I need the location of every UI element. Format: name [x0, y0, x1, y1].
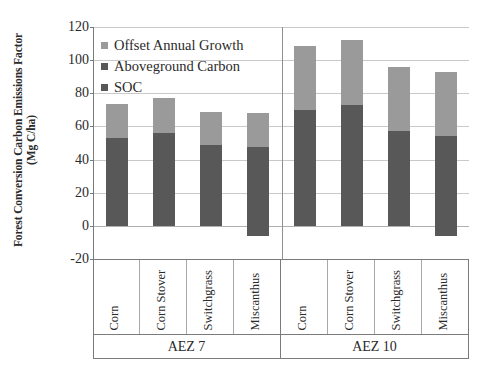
category-cell-corn-stover-aez10: Corn Stover	[328, 260, 375, 334]
legend-item-aboveground-carbon: Aboveground Carbon	[101, 56, 291, 77]
bar-segment-soc-aboveground	[153, 133, 175, 226]
chart-legend: Offset Annual Growth Aboveground Carbon …	[101, 35, 291, 98]
bar-segment-offset-annual-growth	[294, 46, 316, 110]
bar-aez-10-corn-stover	[341, 27, 363, 259]
category-label: Miscanthus	[249, 272, 262, 330]
category-label: Corn	[108, 305, 121, 330]
legend-item-offset-annual-growth: Offset Annual Growth	[101, 35, 291, 56]
bar-segment-soc-aboveground	[341, 105, 363, 226]
category-cell-corn-aez7: Corn	[93, 260, 140, 334]
y-tick-label-60: 60	[75, 119, 89, 133]
y-tick-mark-0	[90, 226, 94, 227]
y-tick-label-0: 0	[82, 219, 89, 233]
legend-swatch-offset-annual-growth	[101, 42, 108, 49]
bar-segment-soc-aboveground	[294, 110, 316, 226]
y-tick-mark-60	[90, 126, 94, 127]
y-tick-label-40: 40	[75, 153, 89, 167]
category-axis: CornCorn StoverSwitchgrassMiscanthusCorn…	[93, 259, 468, 335]
y-axis-title: Forest Conversion Carbon Emissions Facto…	[2, 6, 48, 274]
bar-segment-soc-aboveground	[247, 147, 269, 236]
bar-segment-offset-annual-growth	[388, 67, 410, 132]
y-axis-title-line1: Forest Conversion Carbon Emissions Facto…	[12, 33, 25, 247]
axis-outer-right-edge	[468, 259, 469, 359]
y-tick-label-80: 80	[75, 86, 89, 100]
legend-label-soc: SOC	[114, 80, 142, 95]
category-label: Miscanthus	[437, 272, 450, 330]
category-cell-switchgrass-aez10: Switchgrass	[375, 260, 422, 334]
y-tick-label-120: 120	[68, 20, 89, 34]
category-cell-miscanthus-aez7: Miscanthus	[234, 260, 281, 334]
axis-outer-left-edge	[93, 259, 94, 359]
y-tick-mark-120	[90, 27, 94, 28]
y-tick-mark-80	[90, 93, 94, 94]
category-cell-miscanthus-aez10: Miscanthus	[422, 260, 468, 334]
y-tick-mark-20	[90, 193, 94, 194]
category-cell-corn-aez10: Corn	[281, 260, 328, 334]
legend-swatch-aboveground-carbon	[101, 63, 108, 70]
bar-aez-10-corn	[294, 27, 316, 259]
group-label-aez-10: AEZ 10	[281, 335, 468, 358]
y-tick-mark-100	[90, 60, 94, 61]
group-axis: AEZ 7AEZ 10	[93, 335, 468, 359]
bar-segment-offset-annual-growth	[153, 98, 175, 133]
legend-item-soc: SOC	[101, 77, 291, 98]
category-label: Corn	[296, 305, 309, 330]
bar-segment-offset-annual-growth	[200, 112, 222, 146]
y-tick-label-20: 20	[75, 186, 89, 200]
legend-swatch-soc	[101, 84, 108, 91]
y-axis-title-line2: (Mg C/ha)	[25, 33, 38, 247]
category-label: Switchgrass	[390, 270, 403, 330]
category-label: Corn Stover	[343, 269, 356, 330]
bar-segment-soc-aboveground	[435, 136, 457, 235]
bar-segment-soc-aboveground	[106, 138, 128, 226]
bar-segment-offset-annual-growth	[106, 104, 128, 138]
bar-segment-offset-annual-growth	[247, 113, 269, 147]
bar-segment-offset-annual-growth	[435, 72, 457, 137]
y-tick-label--20: -20	[70, 252, 89, 266]
category-cell-switchgrass-aez7: Switchgrass	[187, 260, 234, 334]
legend-label-offset-annual-growth: Offset Annual Growth	[114, 38, 243, 53]
bar-segment-soc-aboveground	[388, 131, 410, 225]
category-label: Switchgrass	[202, 270, 215, 330]
bar-segment-soc-aboveground	[200, 145, 222, 225]
y-tick-label-100: 100	[68, 53, 89, 67]
category-cell-corn-stover-aez7: Corn Stover	[140, 260, 187, 334]
category-label: Corn Stover	[155, 269, 168, 330]
chart-figure: Forest Conversion Carbon Emissions Facto…	[0, 0, 484, 391]
y-tick-mark-40	[90, 160, 94, 161]
bar-aez-10-switchgrass	[388, 27, 410, 259]
bar-segment-offset-annual-growth	[341, 40, 363, 105]
bar-aez-10-miscanthus	[435, 27, 457, 259]
group-label-aez-7: AEZ 7	[93, 335, 281, 358]
legend-label-aboveground-carbon: Aboveground Carbon	[114, 59, 240, 74]
